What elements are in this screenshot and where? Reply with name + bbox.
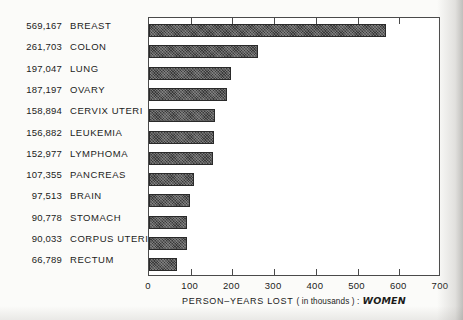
x-axis-title-group: WOMEN xyxy=(363,295,406,306)
category-value-label: 152,977 xyxy=(26,148,62,159)
x-axis-tick-bottom xyxy=(274,269,275,275)
category-label-row: 66,789RECTUM xyxy=(0,254,140,268)
category-name-label: COLON xyxy=(70,41,107,52)
bar xyxy=(149,67,231,80)
x-axis-tick-top xyxy=(358,18,359,24)
bar xyxy=(149,109,215,122)
x-axis-tick-label: 500 xyxy=(348,280,365,291)
plot-area xyxy=(148,17,440,276)
category-value-label: 158,894 xyxy=(26,105,62,116)
x-axis-title-unit: ( in thousands ) : xyxy=(297,297,360,306)
x-axis-tick-label: 100 xyxy=(181,280,198,291)
x-axis-tick-bottom xyxy=(316,269,317,275)
category-name-label: LYMPHOMA xyxy=(70,148,128,159)
x-axis-tick-top xyxy=(191,18,192,24)
category-label-row: 97,513BRAIN xyxy=(0,190,140,204)
category-value-label: 569,167 xyxy=(26,20,62,31)
chart-page: 569,167BREAST261,703COLON197,047LUNG187,… xyxy=(0,0,463,320)
category-name-label: CORPUS UTERI xyxy=(70,233,148,244)
x-axis-title: PERSON–YEARS LOST ( in thousands ) : WOM… xyxy=(148,295,440,306)
x-axis-tick-label: 400 xyxy=(306,280,323,291)
category-value-label: 261,703 xyxy=(26,41,62,52)
bar xyxy=(149,45,258,58)
x-axis-title-main: PERSON–YEARS LOST xyxy=(182,296,293,306)
category-value-label: 90,778 xyxy=(32,212,62,223)
x-axis-tick-bottom xyxy=(232,269,233,275)
category-value-label: 66,789 xyxy=(32,254,62,265)
bar xyxy=(149,152,213,165)
category-value-label: 107,355 xyxy=(26,169,62,180)
x-axis-tick-top xyxy=(274,18,275,24)
category-label-row: 90,778STOMACH xyxy=(0,212,140,226)
x-axis-tick-label: 600 xyxy=(390,280,407,291)
category-label-row: 261,703COLON xyxy=(0,41,140,55)
category-value-label: 187,197 xyxy=(26,84,62,95)
category-label-row: 107,355PANCREAS xyxy=(0,169,140,183)
category-label-row: 152,977LYMPHOMA xyxy=(0,148,140,162)
category-value-label: 156,882 xyxy=(26,127,62,138)
x-axis-tick-top xyxy=(399,18,400,24)
category-name-label: LUNG xyxy=(70,63,99,74)
category-name-label: STOMACH xyxy=(70,212,121,223)
x-axis-tick-label: 700 xyxy=(432,280,449,291)
x-axis-tick-label: 200 xyxy=(223,280,240,291)
bar xyxy=(149,194,190,207)
x-axis-tick-bottom xyxy=(399,269,400,275)
bar xyxy=(149,173,194,186)
x-axis-tick-label: 300 xyxy=(265,280,282,291)
category-label-row: 569,167BREAST xyxy=(0,20,140,34)
category-name-label: LEUKEMIA xyxy=(70,127,122,138)
bar xyxy=(149,258,177,271)
category-name-label: PANCREAS xyxy=(70,169,126,180)
x-axis-tick-top xyxy=(316,18,317,24)
category-label-row: 158,894CERVIX UTERI xyxy=(0,105,140,119)
bar xyxy=(149,131,214,144)
category-value-label: 90,033 xyxy=(32,233,62,244)
category-label-row: 197,047LUNG xyxy=(0,63,140,77)
category-name-label: RECTUM xyxy=(70,254,114,265)
category-label-row: 156,882LEUKEMIA xyxy=(0,127,140,141)
x-axis-tick-bottom xyxy=(358,269,359,275)
x-axis-tick-label: 0 xyxy=(145,280,151,291)
category-name-label: BRAIN xyxy=(70,190,102,201)
category-name-label: OVARY xyxy=(70,84,105,95)
category-value-label: 97,513 xyxy=(32,190,62,201)
bar xyxy=(149,216,187,229)
bar xyxy=(149,237,187,250)
bar xyxy=(149,88,227,101)
category-name-label: BREAST xyxy=(70,20,111,31)
bar xyxy=(149,24,386,37)
x-axis-tick-bottom xyxy=(191,269,192,275)
category-value-label: 197,047 xyxy=(26,63,62,74)
category-name-label: CERVIX UTERI xyxy=(70,105,143,116)
category-label-row: 187,197OVARY xyxy=(0,84,140,98)
x-axis-tick-top xyxy=(232,18,233,24)
category-label-row: 90,033CORPUS UTERI xyxy=(0,233,140,247)
